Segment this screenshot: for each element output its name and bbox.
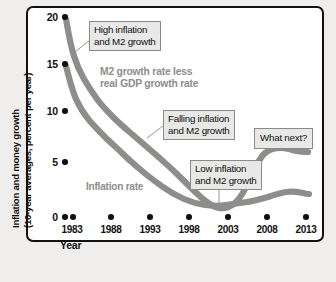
y-tick-label-20: 20 <box>36 11 58 23</box>
x-tick-label-2008: 2008 <box>248 224 286 235</box>
x-tick-dot-1988 <box>108 214 114 220</box>
y-tick-dot-15 <box>62 61 68 67</box>
callout-low-line2: and M2 growth <box>195 175 257 186</box>
callout-high-line2: and M2 growth <box>94 36 156 47</box>
x-tick-label-1988: 1988 <box>92 224 130 235</box>
x-tick-label-1983: 1983 <box>53 224 91 235</box>
x-tick-label-1993: 1993 <box>131 224 169 235</box>
y-axis-title-line1: Inflation and money growth <box>10 109 21 228</box>
x-tick-dot-2013 <box>303 214 309 220</box>
y-tick-dot-5 <box>62 159 68 165</box>
y-tick-label-15: 15 <box>36 58 58 70</box>
x-tick-dot-1998 <box>186 214 192 220</box>
y-tick-dot-0 <box>62 214 68 220</box>
y-axis-title: Inflation and money growth (10-year aver… <box>10 73 33 228</box>
y-tick-label-0: 0 <box>36 211 58 223</box>
x-tick-label-1998: 1998 <box>170 224 208 235</box>
x-tick-dot-2003 <box>225 214 231 220</box>
y-tick-label-10: 10 <box>36 105 58 117</box>
x-tick-dot-1993 <box>147 214 153 220</box>
x-tick-dot-1983 <box>70 214 76 220</box>
callout-high-line1: High inflation <box>94 24 147 35</box>
x-tick-label-2013: 2013 <box>287 224 325 235</box>
callout-falling-inflation: Falling inflation and M2 growth <box>163 110 235 140</box>
callout-what-next: What next? <box>254 128 313 149</box>
callout-low-line1: Low inflation <box>195 163 246 174</box>
series-label-inflation: Inflation rate <box>86 181 143 193</box>
callout-falling-line1: Falling inflation <box>168 113 229 124</box>
y-tick-dot-10 <box>62 108 68 114</box>
x-tick-dot-2008 <box>264 214 270 220</box>
chart-figure: 20 15 10 5 0 1983 1988 1993 1998 2003 20… <box>0 0 336 282</box>
series-label-m2-line2: real GDP growth rate <box>100 78 198 89</box>
callout-high-inflation: High inflation and M2 growth <box>89 21 161 51</box>
y-tick-label-5: 5 <box>36 156 58 168</box>
callout-falling-line2: and M2 growth <box>168 125 230 136</box>
y-axis-title-line2: (10-year averages, percent per year) <box>22 73 33 228</box>
x-axis-title: Year <box>60 239 81 251</box>
series-label-m2-line1: M2 growth rate less <box>100 66 192 77</box>
y-tick-dot-20 <box>62 14 68 20</box>
callout-low-inflation: Low inflation and M2 growth <box>190 160 262 190</box>
series-label-m2: M2 growth rate less real GDP growth rate <box>100 66 198 90</box>
x-tick-label-2003: 2003 <box>209 224 247 235</box>
